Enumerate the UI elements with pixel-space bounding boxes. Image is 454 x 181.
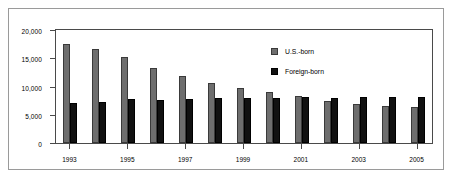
bar-us-born <box>237 88 244 143</box>
bar-foreign-born <box>244 98 251 143</box>
y-axis-tick-label: 15,000 <box>22 56 42 63</box>
bar-us-born <box>150 68 157 143</box>
bar-us-born <box>208 83 215 143</box>
bar-us-born <box>411 107 418 143</box>
bar-group <box>230 30 259 143</box>
bar-foreign-born <box>186 99 193 143</box>
bar-group <box>85 30 114 143</box>
y-axis-tick-label: 0 <box>38 141 42 148</box>
x-axis-tick-label: 1995 <box>120 156 134 163</box>
bar-us-born <box>382 106 389 143</box>
bar-us-born <box>121 57 128 143</box>
bar-us-born <box>92 49 99 143</box>
x-axis-tick-label: 1997 <box>178 156 192 163</box>
chart-legend: U.S.-bornForeign-born <box>271 44 324 84</box>
x-axis-tick <box>243 144 244 149</box>
legend-label: U.S.-born <box>285 48 314 55</box>
bar-group <box>374 30 403 143</box>
y-axis-tick-label: 20,000 <box>22 28 42 35</box>
plot-area: 05,00010,00015,00020,000 U.S.-bornForeig… <box>55 29 433 144</box>
y-axis-tick-label: 10,000 <box>22 84 42 91</box>
bar-foreign-born <box>99 102 106 143</box>
legend-item: U.S.-born <box>271 44 324 58</box>
x-axis: 1993199519971999200120032005 <box>55 144 433 174</box>
bar-us-born <box>353 104 360 143</box>
bar-foreign-born <box>273 98 280 143</box>
bar-us-born <box>266 92 273 143</box>
bar-group <box>172 30 201 143</box>
x-axis-tick-label: 1999 <box>236 156 250 163</box>
bar-foreign-born <box>302 97 309 143</box>
bar-group <box>403 30 432 143</box>
bar-us-born <box>179 76 186 143</box>
bar-us-born <box>324 101 331 143</box>
bar-foreign-born <box>418 97 425 143</box>
bar-foreign-born <box>215 98 222 143</box>
bar-foreign-born <box>360 97 367 143</box>
bar-group <box>56 30 85 143</box>
x-axis-tick-label: 2003 <box>351 156 365 163</box>
bar-us-born <box>295 96 302 143</box>
legend-swatch-icon <box>271 48 278 55</box>
x-axis-tick <box>127 144 128 149</box>
bar-group <box>201 30 230 143</box>
x-axis-tick <box>417 144 418 149</box>
x-axis-tick <box>69 144 70 149</box>
bar-series-container <box>56 30 432 143</box>
bar-group <box>114 30 143 143</box>
x-axis-tick-label: 2005 <box>409 156 423 163</box>
chart-frame: 05,00010,00015,00020,000 U.S.-bornForeig… <box>8 8 444 170</box>
bar-us-born <box>63 44 70 143</box>
legend-label: Foreign-born <box>285 68 324 75</box>
legend-item: Foreign-born <box>271 64 324 78</box>
y-axis-tick-label: 5,000 <box>25 112 42 119</box>
bar-foreign-born <box>157 100 164 143</box>
x-axis-tick <box>301 144 302 149</box>
bar-group <box>143 30 172 143</box>
x-axis-tick-label: 2001 <box>294 156 308 163</box>
bar-foreign-born <box>70 103 77 143</box>
bar-foreign-born <box>128 99 135 143</box>
x-axis-tick-label: 1993 <box>62 156 76 163</box>
legend-swatch-icon <box>271 68 278 75</box>
x-axis-tick <box>185 144 186 149</box>
x-axis-tick <box>359 144 360 149</box>
bar-foreign-born <box>389 97 396 143</box>
bar-foreign-born <box>331 98 338 143</box>
bar-group <box>345 30 374 143</box>
